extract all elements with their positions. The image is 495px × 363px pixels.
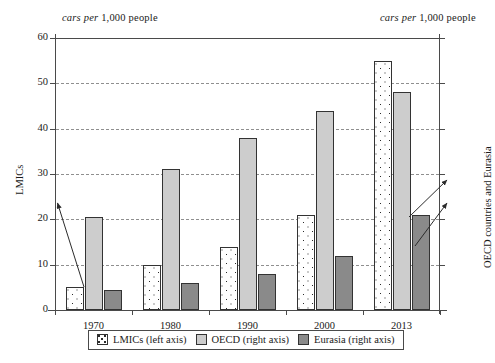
right-tick-mark [440, 38, 445, 39]
right-caption-italic: cars per [380, 12, 416, 23]
left-tick-label: 60 [38, 31, 49, 42]
x-tick-mark [286, 310, 287, 315]
right-tick-mark [440, 174, 445, 175]
right-tick-mark [440, 219, 445, 220]
bar [143, 265, 161, 310]
legend-item[interactable]: OECD (right axis) [196, 334, 290, 345]
bar [239, 138, 257, 310]
bar [162, 169, 180, 310]
legend-label: LMICs (left axis) [113, 334, 187, 345]
bar [412, 215, 430, 310]
left-tick-label: 10 [38, 258, 49, 269]
x-tick-mark [132, 310, 133, 315]
right-axis-unit-caption: cars per 1,000 people [380, 12, 476, 23]
bar [374, 61, 392, 310]
left-tick-mark [50, 219, 55, 220]
left-tick-label: 30 [38, 167, 49, 178]
left-tick-mark [50, 265, 55, 266]
left-tick-label: 0 [43, 303, 48, 314]
bar [85, 217, 103, 310]
x-tick-mark [440, 310, 441, 315]
right-axis-title: OECD countries and Eurasia [482, 146, 493, 268]
left-tick-mark [50, 174, 55, 175]
left-tick-label: 50 [38, 76, 49, 87]
plot-top-border [55, 38, 440, 39]
legend-swatch-icon [97, 334, 108, 345]
bar [220, 247, 238, 310]
legend-swatch-icon [298, 334, 309, 345]
right-tick-mark [440, 83, 445, 84]
plot-area: 0102030405060 0100200300400500600 197019… [55, 38, 440, 310]
bar [181, 283, 199, 310]
left-caption-italic: cars per [62, 12, 98, 23]
bar-chart: cars per 1,000 people cars per 1,000 peo… [0, 0, 495, 363]
legend-label: OECD (right axis) [212, 334, 290, 345]
x-axis-line [48, 310, 447, 311]
left-axis-title: LMICs [14, 165, 25, 195]
x-tick-mark [363, 310, 364, 315]
left-axis-unit-caption: cars per 1,000 people [62, 12, 158, 23]
bar [297, 215, 315, 310]
legend-item[interactable]: LMICs (left axis) [97, 334, 187, 345]
left-caption-rest: 1,000 people [98, 12, 157, 23]
x-tick-mark [209, 310, 210, 315]
left-tick-mark [50, 83, 55, 84]
left-tick-label: 20 [38, 212, 49, 223]
left-tick-mark [50, 38, 55, 39]
bar [393, 92, 411, 310]
bar [258, 274, 276, 310]
legend-item[interactable]: Eurasia (right axis) [298, 334, 394, 345]
right-tick-mark [440, 129, 445, 130]
legend-label: Eurasia (right axis) [314, 334, 394, 345]
right-tick-mark [440, 265, 445, 266]
bar [66, 287, 84, 310]
legend: LMICs (left axis)OECD (right axis)Eurasi… [88, 330, 404, 350]
right-caption-rest: 1,000 people [416, 12, 475, 23]
left-tick-label: 40 [38, 122, 49, 133]
bar [104, 290, 122, 310]
x-tick-mark [55, 310, 56, 315]
bar [335, 256, 353, 310]
legend-swatch-icon [196, 334, 207, 345]
bar [316, 111, 334, 310]
left-tick-mark [50, 129, 55, 130]
